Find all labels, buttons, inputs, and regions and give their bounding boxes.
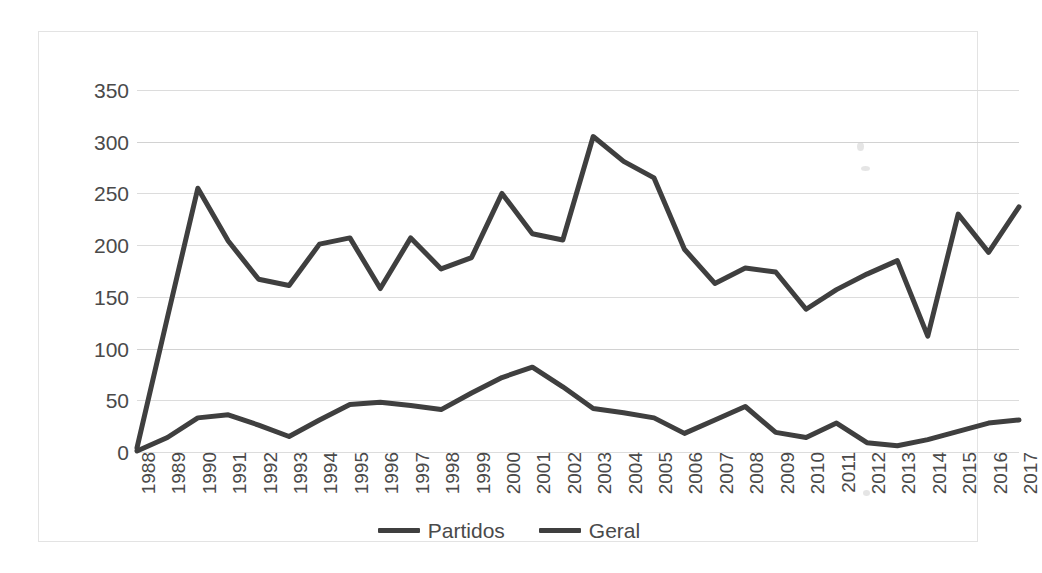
x-axis: 1988198919901991199219931994199519961997…	[137, 456, 1019, 524]
y-axis-tick-label: 50	[69, 390, 129, 411]
scan-artifact	[863, 490, 870, 496]
y-axis-tick-label: 300	[69, 131, 129, 152]
x-axis-tick-label: 1994	[320, 452, 342, 520]
y-axis-tick-label: 200	[69, 235, 129, 256]
x-axis-tick-label: 2016	[990, 452, 1012, 520]
legend-entry-partidos[interactable]: Partidos	[378, 520, 505, 541]
x-axis-tick-label: 1990	[199, 452, 221, 520]
y-axis-tick-label: 250	[69, 183, 129, 204]
series-line-geral	[137, 367, 1019, 451]
x-axis-tick-label: 1988	[138, 452, 160, 520]
x-axis-tick-label: 1998	[442, 452, 464, 520]
series-layer	[137, 90, 1019, 452]
x-axis-tick-label: 2012	[868, 452, 890, 520]
y-axis-tick-label: 100	[69, 338, 129, 359]
scan-artifact	[861, 166, 870, 171]
x-axis-tick-label: 1999	[473, 452, 495, 520]
x-axis-tick-label: 2000	[503, 452, 525, 520]
x-axis-tick-label: 1989	[168, 452, 190, 520]
x-axis-tick-label: 1991	[229, 452, 251, 520]
x-axis-tick-label: 2005	[655, 452, 677, 520]
legend-swatch-geral	[539, 528, 581, 533]
x-axis-tick-label: 2014	[929, 452, 951, 520]
y-axis-tick-label: 350	[69, 80, 129, 101]
legend-label-geral: Geral	[589, 520, 640, 541]
chart-legend: Partidos Geral	[39, 520, 979, 541]
x-axis-tick-label: 1996	[381, 452, 403, 520]
x-axis-tick-label: 2008	[746, 452, 768, 520]
x-axis-tick-label: 2017	[1020, 452, 1042, 520]
legend-swatch-partidos	[378, 528, 420, 533]
x-axis-tick-label: 2002	[564, 452, 586, 520]
legend-entry-geral[interactable]: Geral	[539, 520, 640, 541]
x-axis-tick-label: 2010	[807, 452, 829, 520]
y-axis: 050100150200250300350	[67, 90, 129, 452]
legend-label-partidos: Partidos	[428, 520, 505, 541]
scan-artifact	[857, 142, 864, 151]
x-axis-tick-label: 2011	[838, 452, 860, 520]
x-axis-tick-label: 1995	[351, 452, 373, 520]
x-axis-tick-label: 1997	[412, 452, 434, 520]
y-axis-tick-label: 0	[69, 442, 129, 463]
chart-frame: 050100150200250300350 198819891990199119…	[38, 31, 978, 542]
x-axis-tick-label: 2009	[777, 452, 799, 520]
x-axis-tick-label: 2013	[898, 452, 920, 520]
x-axis-tick-label: 2003	[594, 452, 616, 520]
y-axis-tick-label: 150	[69, 286, 129, 307]
x-axis-tick-label: 2007	[716, 452, 738, 520]
series-line-partidos	[137, 137, 1019, 448]
x-axis-tick-label: 2015	[959, 452, 981, 520]
x-axis-tick-label: 2004	[625, 452, 647, 520]
x-axis-tick-label: 1993	[290, 452, 312, 520]
x-axis-tick-label: 2001	[533, 452, 555, 520]
x-axis-tick-label: 2006	[685, 452, 707, 520]
x-axis-tick-label: 1992	[260, 452, 282, 520]
